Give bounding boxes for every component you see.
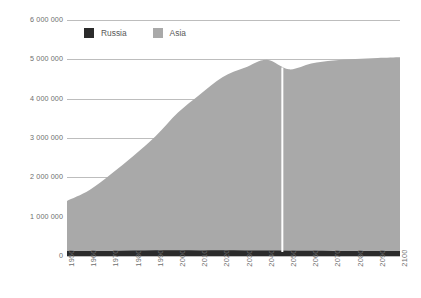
y-axis-tick-label: 5 000 000 — [0, 55, 63, 63]
legend-label-asia: Asia — [170, 28, 186, 38]
y-axis-tick: 3 000 000 — [0, 134, 63, 142]
x-axis-tick: 2050 — [285, 258, 294, 292]
x-axis-tick: 2020 — [218, 258, 227, 292]
x-axis-tick-label: 1990 — [156, 249, 165, 266]
y-axis-tick: 6 000 000 — [0, 16, 63, 24]
legend-swatch-asia — [153, 28, 163, 38]
y-axis-tick-label: 4 000 000 — [0, 95, 63, 103]
y-axis-tick-label: 3 000 000 — [0, 134, 63, 142]
x-axis-tick: 1990 — [151, 258, 160, 292]
x-axis-tick: 1970 — [107, 258, 116, 292]
x-axis-tick-label: 1960 — [89, 249, 98, 266]
x-axis-tick: 2060 — [307, 258, 316, 292]
y-axis-tick: 4 000 000 — [0, 95, 63, 103]
x-axis-tick-label: 2010 — [200, 249, 209, 266]
x-axis-tick: 1950 — [63, 258, 72, 292]
x-axis-tick: 2100 — [396, 258, 405, 292]
plot-svg — [67, 20, 400, 256]
x-axis-tick: 2090 — [373, 258, 382, 292]
asia-area-path — [67, 57, 400, 256]
y-axis-tick: 1 000 000 — [0, 213, 63, 221]
x-axis-tick-label: 2020 — [222, 249, 231, 266]
x-axis-tick-label: 2100 — [400, 249, 409, 266]
x-axis-tick-label: 2090 — [378, 249, 387, 266]
x-axis-tick: 1960 — [85, 258, 94, 292]
x-axis-tick-label: 1970 — [111, 249, 120, 266]
x-axis-tick-label: 2080 — [356, 249, 365, 266]
x-axis-tick: 1980 — [129, 258, 138, 292]
area-chart: 01 000 0002 000 0003 000 0004 000 0005 0… — [0, 0, 421, 298]
legend-spacer — [127, 33, 153, 34]
x-axis-tick-label: 1950 — [67, 249, 76, 266]
y-axis-tick-label: 6 000 000 — [0, 16, 63, 24]
y-axis-tick: 2 000 000 — [0, 173, 63, 181]
x-axis-tick-label: 1980 — [134, 249, 143, 266]
x-axis-tick: 2080 — [351, 258, 360, 292]
x-axis-tick-label: 2070 — [333, 249, 342, 266]
legend-item-russia[interactable]: Russia — [84, 27, 127, 39]
y-axis-tick: 5 000 000 — [0, 55, 63, 63]
legend-item-asia[interactable]: Asia — [153, 27, 186, 39]
x-axis-tick: 2040 — [262, 258, 271, 292]
chart-legend: Russia Asia — [84, 27, 186, 39]
x-axis-tick-label: 2000 — [178, 249, 187, 266]
legend-label-russia: Russia — [101, 28, 127, 38]
x-axis-tick-label: 2030 — [245, 249, 254, 266]
x-axis-tick: 2010 — [196, 258, 205, 292]
x-axis-tick: 2000 — [174, 258, 183, 292]
x-axis-tick-label: 2050 — [289, 249, 298, 266]
y-axis-tick: 0 — [0, 252, 63, 260]
legend-swatch-russia — [84, 28, 94, 38]
x-axis-tick: 2070 — [329, 258, 338, 292]
x-axis-tick-label: 2040 — [267, 249, 276, 266]
y-axis-tick-label: 2 000 000 — [0, 173, 63, 181]
y-axis-tick-label: 0 — [0, 252, 63, 260]
x-axis-tick-label: 2060 — [311, 249, 320, 266]
y-axis-tick-label: 1 000 000 — [0, 213, 63, 221]
plot-area — [67, 20, 400, 256]
x-axis-tick: 2030 — [240, 258, 249, 292]
